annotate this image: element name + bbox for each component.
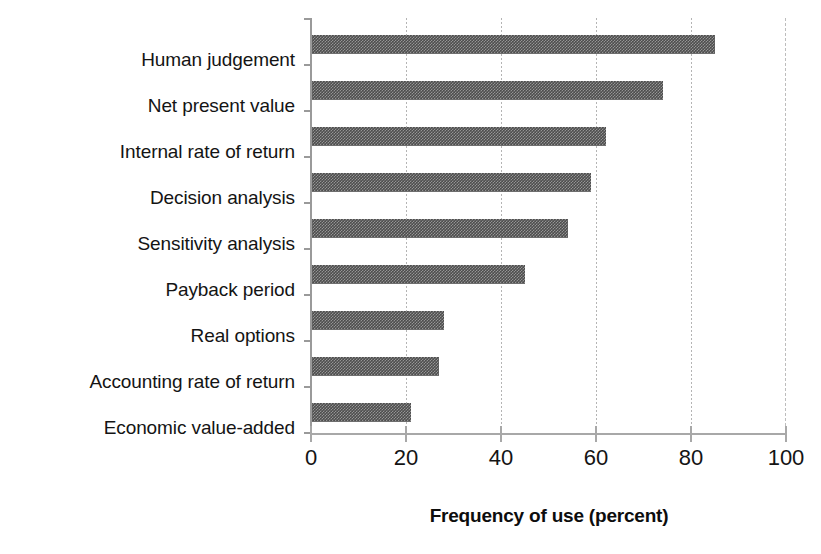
x-axis-tick-label: 40: [489, 446, 513, 470]
x-axis-tick: [690, 426, 692, 442]
x-axis-tick-label: 60: [584, 446, 608, 470]
y-axis-tick: [304, 64, 311, 66]
x-axis-tick-label: 100: [768, 446, 805, 470]
bar-decision-analysis: [311, 173, 591, 192]
category-label: Real options: [0, 326, 295, 345]
y-axis-tick: [304, 202, 311, 204]
x-axis-tick: [500, 426, 502, 442]
category-label: Human judgement: [0, 50, 295, 69]
category-axis-labels: Human judgement Net present value Intern…: [0, 18, 295, 433]
bar-human-judgement: [311, 35, 715, 54]
x-axis-tick: [310, 426, 312, 442]
y-axis-tick: [304, 18, 311, 20]
gridline-100: [785, 18, 786, 433]
category-label: Economic value-added: [0, 418, 295, 437]
y-axis-tick: [304, 110, 311, 112]
category-label: Net present value: [0, 96, 295, 115]
bar-chart: Human judgement Net present value Intern…: [0, 0, 821, 554]
category-label: Payback period: [0, 280, 295, 299]
y-axis-tick: [304, 294, 311, 296]
x-axis-tick-label: 20: [394, 446, 418, 470]
category-label: Decision analysis: [0, 188, 295, 207]
bar-real-options: [311, 311, 444, 330]
x-axis-tick-label: 80: [679, 446, 703, 470]
category-label: Accounting rate of return: [0, 372, 295, 391]
y-axis-tick: [304, 340, 311, 342]
category-label: Sensitivity analysis: [0, 234, 295, 253]
x-axis-line: [311, 433, 787, 435]
x-axis-tick: [595, 426, 597, 442]
x-axis-tick: [405, 426, 407, 442]
gridline-80: [691, 18, 692, 433]
x-axis-title: Frequency of use (percent): [311, 505, 787, 527]
x-axis-tick-label: 0: [305, 446, 317, 470]
y-axis-line: [310, 18, 312, 434]
y-axis-tick: [304, 156, 311, 158]
bar-accounting-rate-of-return: [311, 357, 439, 376]
bar-economic-value-added: [311, 403, 411, 422]
bar-sensitivity-analysis: [311, 219, 568, 238]
y-axis-tick: [304, 248, 311, 250]
bar-internal-rate-of-return: [311, 127, 606, 146]
x-axis-tick: [785, 426, 787, 442]
bar-payback-period: [311, 265, 525, 284]
category-label: Internal rate of return: [0, 142, 295, 161]
y-axis-tick: [304, 386, 311, 388]
plot-area: [311, 18, 786, 433]
bar-net-present-value: [311, 81, 663, 100]
